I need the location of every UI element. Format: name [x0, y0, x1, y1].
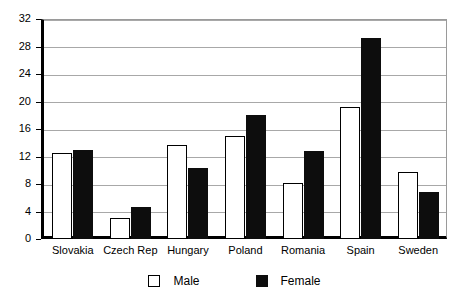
bar-male-sweden — [398, 172, 418, 239]
legend-label-male: Male — [173, 275, 199, 287]
bar-female-romania — [304, 151, 324, 239]
bar-chart: 048121620242832 SlovakiaCzech RepHungary… — [0, 0, 469, 299]
y-axis-tick-label: 28 — [19, 41, 31, 52]
y-axis-tick-label: 16 — [19, 123, 31, 134]
bar-male-spain — [340, 107, 360, 239]
y-axis-tick-label: 20 — [19, 96, 31, 107]
x-axis-tick-label: Spain — [332, 244, 390, 257]
x-axis: SlovakiaCzech RepHungaryPolandRomaniaSpa… — [44, 244, 447, 262]
open-square-marker-icon — [148, 275, 160, 287]
x-axis-tick-label: Slovakia — [44, 244, 102, 257]
x-axis-tick-label: Poland — [217, 244, 275, 257]
x-axis-tick-label: Czech Rep — [102, 244, 160, 257]
bar-group — [102, 19, 160, 239]
bar-group — [389, 19, 447, 239]
legend-item-female: Female — [256, 275, 321, 287]
bar-male-romania — [283, 183, 303, 239]
bar-female-sweden — [419, 192, 439, 239]
x-axis-tick-label: Romania — [274, 244, 332, 257]
x-axis-tick-label: Hungary — [159, 244, 217, 257]
legend-label-female: Female — [281, 275, 321, 287]
bars-layer — [44, 19, 447, 239]
bar-group — [217, 19, 275, 239]
y-axis-tick-label: 4 — [25, 206, 31, 217]
filled-square-marker-icon — [256, 275, 268, 287]
plot-wrapper: 048121620242832 SlovakiaCzech RepHungary… — [0, 0, 469, 262]
bar-male-hungary — [167, 145, 187, 239]
y-axis-tick-label: 24 — [19, 68, 31, 79]
x-axis-tick-label: Sweden — [389, 244, 447, 257]
bar-male-poland — [225, 136, 245, 239]
bar-group — [274, 19, 332, 239]
bar-female-czech-rep — [131, 207, 151, 239]
bar-female-slovakia — [73, 150, 93, 239]
bar-male-slovakia — [52, 153, 72, 239]
bar-group — [44, 19, 102, 239]
bar-group — [159, 19, 217, 239]
bar-male-czech-rep — [110, 218, 130, 239]
chart-legend: Male Female — [0, 268, 469, 294]
y-axis: 048121620242832 — [0, 0, 41, 262]
y-axis-tick-label: 8 — [25, 178, 31, 189]
y-axis-tick-mark — [36, 239, 41, 240]
y-axis-tick-label: 0 — [25, 233, 31, 244]
bar-female-spain — [361, 38, 381, 239]
bar-female-poland — [246, 115, 266, 239]
y-axis-tick-label: 12 — [19, 151, 31, 162]
bar-female-hungary — [188, 168, 208, 239]
y-axis-tick-label: 32 — [19, 13, 31, 24]
bar-group — [332, 19, 390, 239]
legend-item-male: Male — [148, 275, 199, 287]
